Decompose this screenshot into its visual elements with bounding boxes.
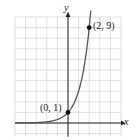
data-point-marker	[87, 25, 92, 30]
x-axis-label: x	[124, 117, 128, 127]
y-axis-label: y	[64, 3, 68, 13]
chart-canvas	[0, 0, 136, 140]
point-label-top: (2, 9)	[93, 21, 115, 31]
data-point-marker	[66, 110, 71, 115]
point-label-origin: (0, 1)	[40, 103, 62, 113]
